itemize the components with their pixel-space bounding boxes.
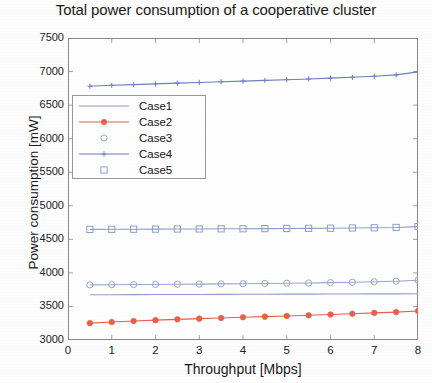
legend-marker-case5-icon xyxy=(77,162,131,178)
plot-series-svg xyxy=(68,38,418,340)
legend-item-case4[interactable]: Case4 xyxy=(73,146,205,162)
x-tick-label: 5 xyxy=(275,344,299,356)
y-tick-label: 5500 xyxy=(22,165,64,177)
legend-item-case3[interactable]: Case3 xyxy=(73,130,205,146)
legend-label: Case1 xyxy=(139,100,172,112)
legend-item-case5[interactable]: Case5 xyxy=(73,162,205,178)
y-tick-label: 3500 xyxy=(22,299,64,311)
y-tick-label: 6000 xyxy=(22,132,64,144)
x-tick-label: 4 xyxy=(231,344,255,356)
legend-marker-case1-icon xyxy=(77,98,131,114)
y-axis-ticks: 3000350040004500500055006000650070007500 xyxy=(16,0,64,383)
legend-marker-case3-icon xyxy=(77,130,131,146)
x-tick-label: 2 xyxy=(144,344,168,356)
series-case1 xyxy=(90,294,418,295)
y-tick-label: 5000 xyxy=(22,199,64,211)
chart-title: Total power consumption of a cooperative… xyxy=(0,1,432,18)
x-tick-label: 3 xyxy=(187,344,211,356)
y-tick-label: 7500 xyxy=(22,31,64,43)
series-case4 xyxy=(87,69,418,88)
legend-item-case1[interactable]: Case1 xyxy=(73,98,205,114)
x-tick-label: 7 xyxy=(362,344,386,356)
chart-legend: Case1Case2Case3Case4Case5 xyxy=(72,95,206,179)
legend-marker-case2-icon xyxy=(77,114,131,130)
y-tick-label: 4000 xyxy=(22,266,64,278)
legend-label: Case2 xyxy=(139,116,172,128)
y-tick-label: 7000 xyxy=(22,65,64,77)
legend-label: Case3 xyxy=(139,132,172,144)
x-tick-label: 8 xyxy=(406,344,430,356)
x-axis-label: Throughput [Mbps] xyxy=(68,361,418,377)
y-tick-label: 6500 xyxy=(22,98,64,110)
x-tick-label: 6 xyxy=(319,344,343,356)
legend-label: Case5 xyxy=(139,164,172,176)
legend-item-case2[interactable]: Case2 xyxy=(73,114,205,130)
y-tick-label: 4500 xyxy=(22,232,64,244)
legend-marker-case4-icon xyxy=(77,146,131,162)
series-case2 xyxy=(87,308,418,326)
series-case5 xyxy=(87,223,418,232)
legend-label: Case4 xyxy=(139,148,172,160)
series-case3 xyxy=(87,277,418,288)
x-tick-label: 0 xyxy=(56,344,80,356)
x-tick-label: 1 xyxy=(100,344,124,356)
chart-figure: Total power consumption of a cooperative… xyxy=(0,0,432,383)
